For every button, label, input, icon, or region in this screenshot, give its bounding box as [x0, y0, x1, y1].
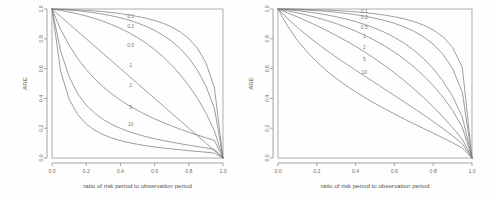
- x-axis-title: ratio of risk period to observation peri…: [83, 182, 192, 189]
- x-tick-label: 0.8: [185, 168, 192, 174]
- chart-panel-right: 0.00.20.40.60.81.00.00.20.40.60.81.0rati…: [245, 0, 490, 200]
- curve-label-2: 2: [129, 82, 132, 88]
- y-tick-label: 0.6: [264, 65, 270, 72]
- x-tick-label: 0.6: [391, 168, 398, 174]
- x-tick-label: 0.0: [274, 168, 281, 174]
- curve-1: [52, 9, 223, 158]
- curve-label-10: 10: [128, 121, 134, 127]
- y-axis-title: ARE: [21, 77, 28, 90]
- x-tick-label: 0.0: [48, 168, 55, 174]
- curve-2: [278, 9, 472, 158]
- curve-label-0.5: 0.5: [127, 42, 134, 48]
- curve-5: [278, 9, 472, 158]
- y-tick-label: 0.8: [264, 35, 270, 42]
- curve-label-1: 1: [363, 33, 366, 39]
- y-tick-label: 0.2: [38, 124, 44, 131]
- curve-0.2: [278, 9, 472, 158]
- x-tick-label: 0.8: [430, 168, 437, 174]
- curve-label-0.5: 0.5: [361, 24, 368, 30]
- y-tick-label: 0.4: [38, 95, 44, 102]
- chart-panel-left: 0.00.20.40.60.81.00.00.20.40.60.81.0rati…: [0, 0, 245, 200]
- x-tick-label: 0.2: [313, 168, 320, 174]
- y-tick-label: 0.6: [38, 65, 44, 72]
- plot-left: 0.00.20.40.60.81.00.00.20.40.60.81.0rati…: [0, 0, 245, 200]
- figure-root: 0.00.20.40.60.81.00.00.20.40.60.81.0rati…: [0, 0, 490, 200]
- curve-10: [278, 9, 472, 158]
- curve-1: [278, 9, 472, 158]
- x-tick-label: 1.0: [219, 168, 226, 174]
- plot-frame: [278, 9, 472, 158]
- x-axis-title: ratio of risk period to observation peri…: [321, 182, 430, 189]
- x-tick-label: 0.2: [83, 168, 90, 174]
- y-tick-label: 0.4: [264, 95, 270, 102]
- curve-label-1: 1: [129, 62, 132, 68]
- x-tick-label: 0.6: [151, 168, 158, 174]
- curve-0.1: [278, 9, 472, 158]
- y-tick-label: 0.0: [38, 154, 44, 161]
- y-tick-label: 1.0: [38, 5, 44, 12]
- x-tick-label: 0.4: [352, 168, 359, 174]
- y-tick-label: 0.0: [264, 154, 270, 161]
- curve-label-0.1: 0.1: [127, 13, 134, 19]
- plot-right: 0.00.20.40.60.81.00.00.20.40.60.81.0rati…: [245, 0, 490, 200]
- y-axis-title: ARE: [247, 77, 254, 90]
- x-tick-label: 0.4: [117, 168, 124, 174]
- x-tick-label: 1.0: [468, 168, 475, 174]
- curve-label-5: 5: [363, 56, 366, 62]
- curve-label-0.2: 0.2: [361, 14, 368, 20]
- curve-label-5: 5: [129, 104, 132, 110]
- y-tick-label: 1.0: [264, 5, 270, 12]
- y-tick-label: 0.8: [38, 35, 44, 42]
- curve-0.5: [278, 9, 472, 158]
- curve-label-10: 10: [362, 69, 368, 75]
- y-tick-label: 0.2: [264, 124, 270, 131]
- curve-label-0.2: 0.2: [127, 23, 134, 29]
- curve-label-2: 2: [363, 44, 366, 50]
